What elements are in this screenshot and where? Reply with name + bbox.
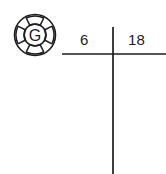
figure-canvas: G 6 18	[0, 0, 166, 174]
lifebuoy-stub-top	[30, 24, 40, 25]
lifebuoy-stub-bottom	[30, 44, 40, 45]
right-quadrant-value: 18	[128, 32, 145, 47]
lifebuoy-cap-right	[52, 26, 54, 44]
left-quadrant-value: 6	[80, 32, 89, 47]
lifebuoy-cap-top	[26, 16, 44, 18]
lifebuoy-cap-left	[16, 26, 18, 44]
lifebuoy-stub-left	[24, 30, 25, 40]
quadrant-divider	[62, 27, 166, 174]
lifebuoy-center-letter: G	[29, 27, 41, 44]
chart-symbol-drawing: G	[0, 0, 166, 174]
lifebuoy-stub-right	[44, 30, 45, 40]
lifebuoy-cap-bottom	[26, 52, 44, 54]
